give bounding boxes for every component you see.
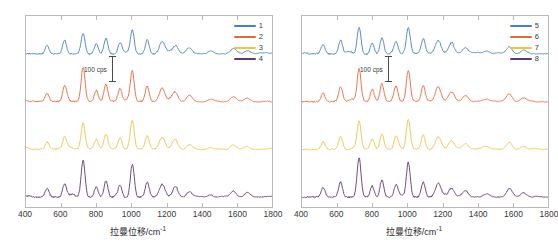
x-tick-label: 1000 [398, 209, 417, 220]
x-axis-tick [443, 203, 444, 207]
legend-label: 2 [259, 33, 263, 41]
x-axis-tick [237, 16, 238, 20]
x-axis-tick [372, 16, 373, 20]
legend-swatch-icon [234, 58, 256, 60]
legend-swatch-icon [510, 36, 532, 38]
panel-left: 1 2 3 4 100 cps [0, 0, 276, 248]
x-tick-label: 1200 [157, 209, 176, 220]
spectrum-curve-3 [26, 121, 272, 150]
scale-bar-label: 100 cps [360, 66, 383, 73]
legend-item[interactable]: 7 [510, 44, 539, 52]
x-tick-label: 600 [53, 209, 67, 220]
legend-left: 1 2 3 4 [231, 20, 266, 65]
x-axis-tick [202, 16, 203, 20]
x-axis-tick-labels-left: 400 600 800 1000 1200 1400 1600 1800 [25, 209, 273, 223]
x-tick-label: 800 [365, 209, 379, 220]
scale-bar-ibeam-icon [109, 56, 116, 82]
legend-label: 1 [259, 22, 263, 30]
scale-bar-left: 100 cps [84, 56, 116, 82]
x-axis-tick [96, 16, 97, 20]
legend-item[interactable]: 4 [234, 55, 263, 63]
spectrum-curve-7 [302, 119, 548, 150]
x-axis-tick [61, 16, 62, 20]
plot-area-right: 5 6 7 8 100 cps [301, 15, 549, 208]
x-axis-title-exponent: -1 [436, 225, 442, 232]
legend-label: 5 [535, 22, 539, 30]
legend-label: 4 [259, 55, 263, 63]
legend-item[interactable]: 8 [510, 55, 539, 63]
x-axis-tick [337, 16, 338, 20]
x-tick-label: 400 [18, 209, 32, 220]
legend-swatch-icon [234, 36, 256, 38]
legend-item[interactable]: 3 [234, 44, 263, 52]
legend-item[interactable]: 1 [234, 22, 263, 30]
x-axis-tick [202, 203, 203, 207]
x-axis-title-text: 拉曼位移/cm [110, 227, 161, 237]
legend-label: 3 [259, 44, 263, 52]
legend-swatch-icon [510, 25, 532, 27]
x-axis-tick [478, 203, 479, 207]
x-axis-tick [372, 203, 373, 207]
legend-label: 6 [535, 33, 539, 41]
x-axis-title-exponent: -1 [160, 225, 166, 232]
spectrum-curve-8 [302, 158, 548, 198]
x-axis-tick [167, 203, 168, 207]
x-axis-title-left: 拉曼位移/cm-1 [0, 225, 276, 238]
plot-area-left: 1 2 3 4 100 cps [25, 15, 273, 208]
spectrum-curve-6 [302, 69, 548, 103]
legend-right: 5 6 7 8 [507, 20, 542, 65]
x-axis-tick [167, 16, 168, 20]
x-tick-label: 1200 [433, 209, 452, 220]
x-tick-label: 1600 [228, 209, 247, 220]
legend-label: 7 [535, 44, 539, 52]
x-tick-label: 1400 [193, 209, 212, 220]
x-axis-tick [443, 16, 444, 20]
x-axis-tick [131, 16, 132, 20]
scale-bar-label: 100 cps [84, 66, 107, 73]
legend-item[interactable]: 5 [510, 22, 539, 30]
x-axis-tick [407, 16, 408, 20]
legend-swatch-icon [510, 58, 532, 60]
x-axis-tick [513, 16, 514, 20]
scale-bar-right: 100 cps [360, 56, 392, 82]
x-axis-tick [478, 16, 479, 20]
x-axis-tick [407, 203, 408, 207]
spectrum-curve-2 [26, 67, 272, 102]
x-axis-title-text: 拉曼位移/cm [386, 227, 437, 237]
x-axis-tick [61, 203, 62, 207]
x-tick-label: 1000 [122, 209, 141, 220]
legend-label: 8 [535, 55, 539, 63]
x-tick-label: 400 [294, 209, 308, 220]
x-axis-title-right: 拉曼位移/cm-1 [276, 225, 552, 238]
legend-swatch-icon [510, 47, 532, 49]
x-axis-tick-labels-right: 400 600 800 1000 1200 1400 1600 1800 [301, 209, 549, 223]
spectrum-curve-4 [26, 160, 272, 198]
legend-item[interactable]: 6 [510, 33, 539, 41]
x-tick-label: 1800 [540, 209, 558, 220]
x-tick-label: 600 [329, 209, 343, 220]
x-axis-tick [237, 203, 238, 207]
scale-bar-ibeam-icon [385, 56, 392, 82]
legend-swatch-icon [234, 47, 256, 49]
x-tick-label: 1400 [469, 209, 488, 220]
x-axis-tick [513, 203, 514, 207]
x-axis-tick [131, 203, 132, 207]
x-axis-tick [96, 203, 97, 207]
panel-right: 5 6 7 8 100 cps [276, 0, 552, 248]
legend-swatch-icon [234, 25, 256, 27]
legend-item[interactable]: 2 [234, 33, 263, 41]
x-tick-label: 800 [89, 209, 103, 220]
x-axis-tick [337, 203, 338, 207]
x-tick-label: 1600 [504, 209, 523, 220]
